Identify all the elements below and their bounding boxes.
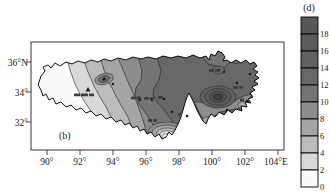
- colorbar-tick-10: 10: [320, 97, 329, 107]
- colorbar-segment-12-14: [301, 68, 318, 85]
- x-tick-104e: 104°E: [264, 157, 288, 167]
- primary-maximum-bullseye: [200, 86, 236, 108]
- x-tick-98: 98°: [172, 157, 186, 167]
- colorbar-tick-0: 0: [320, 182, 324, 192]
- x-tick-90: 90°: [40, 157, 54, 167]
- colorbar-tick-labels: 18 16 14 12 10 8 6 4 2 0: [320, 29, 329, 192]
- colorbar-panel-label-d: (d): [303, 2, 315, 14]
- y-tick-34: 34°: [15, 88, 29, 98]
- colorbar-tick-14: 14: [320, 63, 329, 73]
- x-tick-92: 92°: [73, 157, 87, 167]
- colorbar-segment-6-8: [301, 119, 318, 136]
- colorbar: (d) 18 16 14 12 10 8 6 4 2 0: [301, 2, 329, 192]
- colorbar-tick-8: 8: [320, 114, 324, 124]
- colorbar-segment-0-2: [301, 170, 318, 187]
- x-tick-94: 94°: [106, 157, 120, 167]
- colorbar-segments: [301, 17, 318, 187]
- colorbar-segment-10-12: [301, 85, 318, 102]
- colorbar-segment-18-20: [301, 17, 318, 34]
- panel-label-b: (b): [59, 130, 71, 142]
- colorbar-segment-14-16: [301, 51, 318, 68]
- figure-canvas: (b) 36°N 34° 32° 90° 92° 94° 96° 98° 100…: [0, 0, 329, 194]
- colorbar-segment-4-6: [301, 136, 318, 153]
- x-tick-102: 102°: [236, 157, 254, 167]
- y-tick-36n: 36°N: [8, 58, 28, 68]
- x-tick-96: 96°: [139, 157, 153, 167]
- y-axis-labels: 36°N 34° 32°: [8, 58, 28, 128]
- x-axis-labels: 90° 92° 94° 96° 98° 100° 102° 104°E: [40, 157, 288, 167]
- colorbar-tick-2: 2: [320, 165, 324, 175]
- colorbar-tick-18: 18: [320, 29, 329, 39]
- y-tick-32: 32°: [15, 118, 29, 128]
- colorbar-tick-6: 6: [320, 131, 324, 141]
- colorbar-tick-12: 12: [320, 80, 329, 90]
- colorbar-tick-16: 16: [320, 46, 329, 56]
- x-tick-100: 100°: [203, 157, 221, 167]
- contour-map-figure: (b) 36°N 34° 32° 90° 92° 94° 96° 98° 100…: [0, 0, 329, 194]
- colorbar-segment-8-10: [301, 102, 318, 119]
- colorbar-segment-2-4: [301, 153, 318, 170]
- colorbar-tick-4: 4: [320, 148, 325, 158]
- colorbar-segment-16-18: [301, 34, 318, 51]
